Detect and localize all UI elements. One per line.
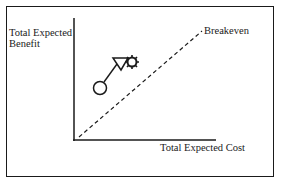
circle-node-icon	[94, 82, 107, 95]
connector-line	[104, 64, 117, 82]
node-cluster	[94, 55, 140, 95]
triangle-node-icon	[113, 58, 128, 70]
gear-node-icon	[125, 55, 139, 69]
diagram-canvas	[0, 0, 282, 190]
